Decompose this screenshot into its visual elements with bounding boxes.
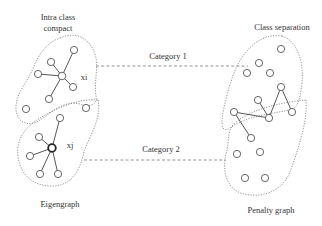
penalty-edges (234, 87, 292, 138)
xi-edges (38, 50, 74, 99)
category2-label: Category 2 (133, 144, 189, 155)
intra-class-line2: compact (30, 23, 86, 34)
xi-node (58, 72, 66, 80)
class-separation-label: Class separation (250, 22, 314, 33)
category1-label: Category 1 (140, 51, 196, 62)
xi-label: xi (78, 72, 90, 83)
eigengraph-label: Eigengraph (30, 199, 90, 210)
xj-label: xj (64, 140, 76, 151)
intra-class-label: Intra class compact (30, 12, 86, 34)
intra-class-line1: Intra class (30, 12, 86, 23)
penalty-graph-label: Penalty graph (236, 205, 306, 216)
eigengraph-nodes (22, 46, 89, 177)
xj-node (48, 144, 56, 152)
